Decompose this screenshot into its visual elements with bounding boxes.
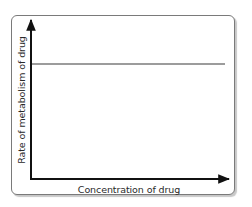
plot-area <box>0 0 252 207</box>
y-axis-label: Rate of metabolism of drug <box>16 36 27 164</box>
x-axis-label: Concentration of drug <box>78 184 180 195</box>
